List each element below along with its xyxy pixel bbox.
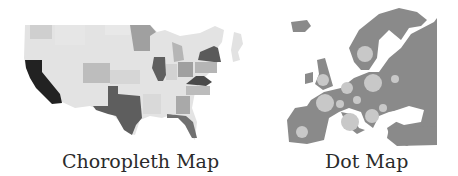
state-mt xyxy=(55,25,85,45)
dot-map-panel: Dot Map xyxy=(229,0,458,176)
europe-dot-map xyxy=(229,0,458,150)
state-in xyxy=(166,64,177,80)
dot-russia xyxy=(391,75,399,83)
dot-ukraine xyxy=(379,104,387,112)
dot-france xyxy=(316,94,334,112)
state-ga xyxy=(176,96,190,114)
dot-czech xyxy=(353,96,361,104)
state-oh xyxy=(178,62,193,77)
ireland-shape xyxy=(305,72,313,84)
choropleth-map-caption: Choropleth Map xyxy=(62,150,219,172)
state-ks xyxy=(110,70,140,84)
dot-map-caption: Dot Map xyxy=(325,150,408,172)
state-nd xyxy=(105,25,130,35)
dot-spain xyxy=(296,126,308,138)
dot-poland xyxy=(364,74,382,92)
iceland-shape xyxy=(291,20,311,32)
choropleth-map-panel: Choropleth Map xyxy=(0,0,229,176)
dot-sweden xyxy=(357,46,373,62)
state-wa xyxy=(30,25,52,39)
dot-uk xyxy=(317,74,329,86)
dot-switzerland xyxy=(336,100,344,108)
dot-germany xyxy=(341,82,353,94)
state-pa xyxy=(195,62,217,73)
dot-italy xyxy=(341,113,359,131)
faded-land-shape xyxy=(231,32,243,62)
us-choropleth-map xyxy=(0,0,229,150)
state-nc xyxy=(186,86,210,95)
dot-romania xyxy=(365,109,379,123)
turkey-shape xyxy=(387,126,437,146)
state-ms xyxy=(143,94,161,114)
state-co xyxy=(83,63,110,83)
